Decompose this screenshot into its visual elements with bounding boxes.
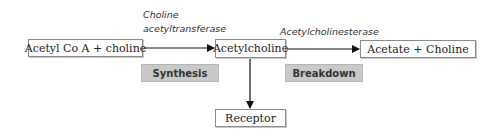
products-box: Acetate + Choline [360,40,476,58]
synthesis-enzyme-label: Choline acetyltransferase [143,8,226,36]
synthesis-tag: Synthesis [141,64,219,82]
receptor-box: Receptor [215,109,286,127]
enzyme-line-1: Choline [143,8,226,22]
breakdown-tag: Breakdown [285,64,363,82]
enzyme-line-2: acetyltransferase [143,22,226,36]
breakdown-enzyme-label: Acetylcholinesterase [280,25,379,39]
substrate-box: Acetyl Co A + choline [28,39,143,57]
acetylcholine-box: Acetylcholine [215,39,286,58]
